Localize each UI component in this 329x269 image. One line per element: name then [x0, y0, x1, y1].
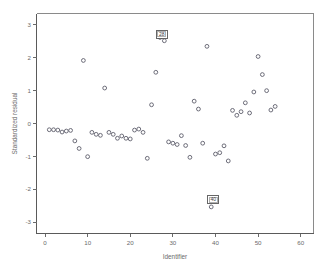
data-point [111, 132, 115, 136]
plot-frame [37, 14, 314, 234]
data-point [171, 141, 175, 145]
data-point [235, 113, 239, 117]
y-tick-label: 3 [28, 21, 32, 28]
x-tick-label: 30 [169, 239, 176, 246]
data-point [120, 134, 124, 138]
data-point [99, 133, 103, 137]
data-point [243, 101, 247, 105]
data-point [265, 89, 269, 93]
data-point [184, 144, 188, 148]
data-point [137, 127, 141, 131]
x-axis-title: Identifier [163, 253, 188, 260]
data-point [60, 130, 64, 134]
data-point [77, 147, 81, 151]
data-point [256, 55, 260, 59]
x-tick-label: 60 [297, 239, 304, 246]
data-point [103, 86, 107, 90]
data-point [52, 128, 56, 132]
data-point [47, 128, 51, 132]
y-tick-label: -1 [25, 153, 31, 160]
y-axis-ticks: 3210-1-2-3 [25, 21, 36, 225]
scatter-plot-figure: 0102030405060 3210-1-2-3 2840 Identifier… [0, 0, 329, 269]
data-point [214, 152, 218, 156]
data-point [64, 129, 68, 133]
y-tick-label: 2 [28, 54, 32, 61]
data-point [167, 140, 171, 144]
x-axis-ticks: 0102030405060 [43, 234, 304, 246]
data-point [86, 155, 90, 159]
data-point [145, 156, 149, 160]
data-point [239, 110, 243, 114]
data-point [150, 103, 154, 107]
data-point [56, 128, 60, 132]
data-point [81, 59, 85, 63]
x-tick-label: 50 [255, 239, 262, 246]
data-point [162, 39, 166, 43]
annotation-label: 40 [211, 196, 217, 202]
data-point [73, 139, 77, 143]
data-point [69, 129, 73, 133]
data-point [116, 136, 120, 140]
data-point [94, 132, 98, 136]
data-points [47, 36, 277, 209]
data-point [248, 111, 252, 115]
data-point [179, 134, 183, 138]
data-point [175, 143, 179, 147]
data-point [269, 108, 273, 112]
data-point [192, 99, 196, 103]
data-point [273, 105, 277, 109]
data-point [226, 159, 230, 163]
data-point [260, 73, 264, 77]
y-axis-title: Standardized residual [11, 93, 18, 155]
x-tick-label: 0 [43, 239, 47, 246]
data-point [209, 205, 213, 209]
data-point [154, 70, 158, 74]
x-tick-label: 10 [84, 239, 91, 246]
data-point [141, 130, 145, 134]
data-point [222, 144, 226, 148]
x-tick-label: 40 [212, 239, 219, 246]
annotation-label: 28 [159, 31, 165, 37]
data-point [90, 130, 94, 134]
data-point [107, 130, 111, 134]
y-tick-label: -3 [25, 218, 31, 225]
data-point [197, 107, 201, 111]
x-tick-label: 20 [127, 239, 134, 246]
data-point [218, 151, 222, 155]
data-point [128, 137, 132, 141]
data-point [133, 128, 137, 132]
plot-canvas: 0102030405060 3210-1-2-3 2840 Identifier… [0, 0, 329, 269]
y-tick-label: 1 [28, 87, 32, 94]
y-tick-label: 0 [28, 120, 32, 127]
data-point [252, 90, 256, 94]
data-point [201, 141, 205, 145]
data-point [188, 155, 192, 159]
y-tick-label: -2 [25, 185, 31, 192]
data-point [205, 44, 209, 48]
data-point [231, 108, 235, 112]
case-annotations: 2840 [156, 30, 219, 203]
data-point [124, 136, 128, 140]
